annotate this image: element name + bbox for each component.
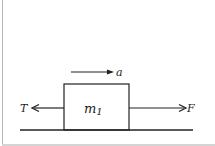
acceleration-label: a: [116, 66, 123, 79]
diagram-canvas: m1 a T F: [0, 0, 215, 146]
tension-arrow-icon: [32, 105, 64, 112]
force-label: F: [186, 102, 195, 115]
acceleration-arrow-icon: [71, 70, 114, 75]
force-arrow-icon: [129, 105, 186, 112]
block-label: m1: [84, 101, 103, 117]
tension-label: T: [20, 102, 29, 115]
